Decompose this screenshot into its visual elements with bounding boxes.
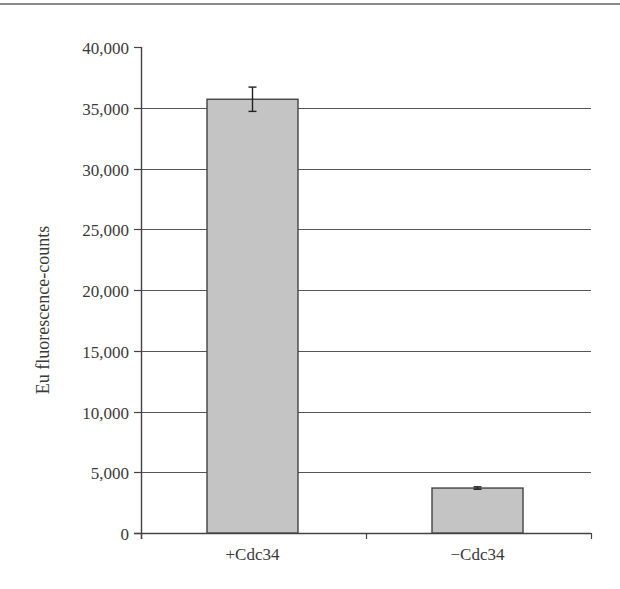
y-tick-label: 35,000 xyxy=(82,100,129,119)
y-tick-label: 20,000 xyxy=(82,282,129,301)
y-tick-label: 30,000 xyxy=(82,161,129,180)
y-axis-title: Eu fluorescence-counts xyxy=(33,226,53,394)
y-tick-label: 5,000 xyxy=(91,464,129,483)
bar-minus-cdc34 xyxy=(432,488,523,533)
y-tick-label: 10,000 xyxy=(82,404,129,423)
category-label: +Cdc34 xyxy=(226,545,280,564)
bar-plus-cdc34 xyxy=(207,99,298,533)
y-tick-label: 15,000 xyxy=(82,343,129,362)
y-tick-label: 40,000 xyxy=(82,39,129,58)
category-label: −Cdc34 xyxy=(451,545,505,564)
y-tick-label: 0 xyxy=(121,525,130,544)
bar-chart: 05,00010,00015,00020,00025,00030,00035,0… xyxy=(0,0,620,589)
y-tick-label: 25,000 xyxy=(82,221,129,240)
